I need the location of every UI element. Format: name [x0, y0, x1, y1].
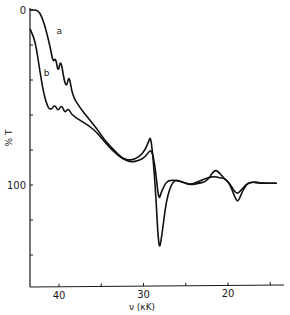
y-axis-title: % T: [4, 129, 14, 146]
y-tick-label: 100: [7, 180, 26, 191]
x-axis-title: ν (κK): [129, 302, 155, 312]
ir-spectrum-chart: 0100 403020 ab % T ν (κK): [0, 0, 290, 315]
x-tick-label: 20: [222, 288, 235, 299]
series-line-a: [30, 10, 276, 246]
curve-label-a: a: [56, 26, 62, 36]
axes: [30, 8, 284, 287]
series-line-b: [30, 29, 276, 197]
x-tick-label: 40: [53, 290, 66, 301]
x-tick-label: 30: [137, 289, 150, 300]
curves: [30, 10, 276, 246]
y-tick-label: 0: [20, 5, 26, 16]
x-axis: [30, 285, 284, 287]
curve-label-b: b: [44, 68, 50, 78]
